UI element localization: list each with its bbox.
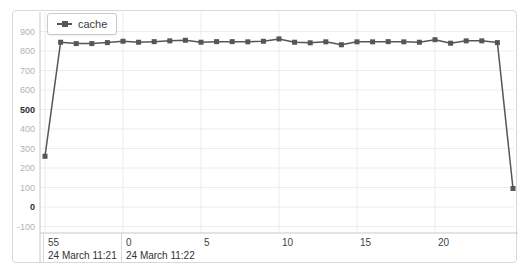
data-point-marker[interactable] xyxy=(479,38,484,43)
series-marker-icon xyxy=(57,23,72,25)
data-point-marker[interactable] xyxy=(495,40,500,45)
data-point-marker[interactable] xyxy=(277,36,282,41)
data-point-marker[interactable] xyxy=(214,39,219,44)
data-point-marker[interactable] xyxy=(245,39,250,44)
data-point-marker[interactable] xyxy=(511,186,516,191)
data-point-marker[interactable] xyxy=(292,40,297,45)
y-tick-label: 100 xyxy=(20,183,35,193)
data-point-marker[interactable] xyxy=(308,40,313,45)
data-point-marker[interactable] xyxy=(448,41,453,46)
data-point-marker[interactable] xyxy=(167,38,172,43)
data-point-marker[interactable] xyxy=(355,39,360,44)
y-tick-label: 700 xyxy=(20,66,35,76)
x-tick-label: 15 xyxy=(360,237,372,248)
data-point-marker[interactable] xyxy=(183,38,188,43)
y-tick-label: 500 xyxy=(20,105,35,115)
y-tick-label: -100 xyxy=(17,222,35,232)
data-point-marker[interactable] xyxy=(199,40,204,45)
chart-widget: 9008007006005004003002001000-10055051015… xyxy=(0,0,530,279)
legend-cache[interactable]: cache xyxy=(47,13,117,35)
data-point-marker[interactable] xyxy=(136,40,141,45)
data-point-marker[interactable] xyxy=(230,39,235,44)
legend-label: cache xyxy=(78,19,107,30)
x-tick-label: 55 xyxy=(48,237,60,248)
x-date-label: 24 March 11:22 xyxy=(126,250,195,261)
y-tick-label: 0 xyxy=(30,202,35,212)
x-tick-label: 10 xyxy=(282,237,294,248)
data-point-marker[interactable] xyxy=(401,39,406,44)
y-tick-label: 300 xyxy=(20,144,35,154)
y-tick-label: 800 xyxy=(20,46,35,56)
data-point-marker[interactable] xyxy=(89,41,94,46)
data-point-marker[interactable] xyxy=(323,39,328,44)
x-tick-label: 0 xyxy=(126,237,132,248)
y-tick-label: 900 xyxy=(20,27,35,37)
data-point-marker[interactable] xyxy=(261,39,266,44)
data-point-marker[interactable] xyxy=(370,39,375,44)
y-tick-label: 200 xyxy=(20,163,35,173)
data-point-marker[interactable] xyxy=(74,41,79,46)
data-point-marker[interactable] xyxy=(121,39,126,44)
data-point-marker[interactable] xyxy=(417,40,422,45)
data-point-marker[interactable] xyxy=(464,38,469,43)
data-point-marker[interactable] xyxy=(339,42,344,47)
x-date-label: 24 March 11:21 xyxy=(48,250,117,261)
data-point-marker[interactable] xyxy=(152,39,157,44)
data-point-marker[interactable] xyxy=(58,40,63,45)
chart-canvas[interactable]: 9008007006005004003002001000-10055051015… xyxy=(0,0,530,279)
x-tick-label: 5 xyxy=(204,237,210,248)
data-point-marker[interactable] xyxy=(43,154,48,159)
data-point-marker[interactable] xyxy=(105,40,110,45)
data-point-marker[interactable] xyxy=(433,37,438,42)
y-tick-label: 600 xyxy=(20,85,35,95)
y-tick-label: 400 xyxy=(20,124,35,134)
x-tick-label: 20 xyxy=(438,237,450,248)
data-point-marker[interactable] xyxy=(386,39,391,44)
